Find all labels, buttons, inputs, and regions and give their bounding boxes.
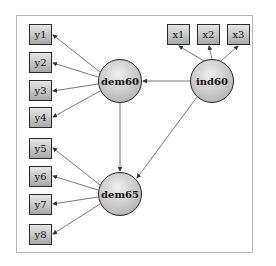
node-label: ind60 [196, 76, 228, 87]
observed-y6: y6 [29, 166, 52, 187]
observed-x3: x3 [227, 24, 250, 45]
observed-y1: y1 [29, 24, 52, 45]
node-label: y7 [34, 199, 46, 210]
observed-y8: y8 [29, 224, 52, 245]
node-label: x2 [202, 29, 214, 40]
observed-y5: y5 [29, 138, 52, 159]
observed-x1: x1 [167, 24, 190, 45]
observed-y3: y3 [29, 80, 52, 101]
node-label: y8 [34, 229, 46, 240]
sem-path-diagram: y1 y2 y3 y4 y5 y6 y7 y8 x1 x2 x3 dem60 d… [0, 0, 276, 266]
node-label: dem60 [101, 76, 139, 87]
node-label: dem65 [101, 189, 139, 200]
node-label: y6 [34, 171, 46, 182]
node-label: y2 [34, 57, 46, 68]
latent-dem65: dem65 [98, 172, 142, 216]
node-label: y5 [34, 143, 46, 154]
node-label: x1 [172, 29, 184, 40]
latent-dem60: dem60 [98, 59, 142, 103]
node-label: y3 [34, 85, 46, 96]
node-label: y4 [34, 112, 46, 123]
observed-y2: y2 [29, 52, 52, 73]
node-label: y1 [34, 29, 46, 40]
observed-y7: y7 [29, 194, 52, 215]
observed-x2: x2 [197, 24, 220, 45]
observed-y4: y4 [29, 107, 52, 128]
node-label: x3 [232, 29, 244, 40]
latent-ind60: ind60 [190, 59, 234, 103]
